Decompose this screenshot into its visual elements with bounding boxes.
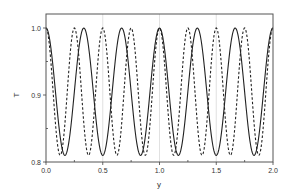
- x-tick-label: 1.0: [155, 167, 165, 174]
- y-axis-label: T: [12, 92, 21, 97]
- x-tick-label: 0.5: [98, 167, 108, 174]
- x-tick-label: 1.5: [211, 167, 221, 174]
- x-tick-label: 2.0: [268, 167, 278, 174]
- line-chart: 0.00.51.01.52.0 0.80.91.0 y T: [0, 0, 292, 194]
- x-axis-label: y: [157, 180, 161, 189]
- y-axis-ticks: 0.80.91.0: [31, 25, 48, 166]
- y-tick-label: 0.8: [31, 159, 41, 166]
- y-tick-label: 0.9: [31, 92, 41, 99]
- y-tick-label: 1.0: [31, 25, 41, 32]
- x-tick-label: 0.0: [41, 167, 51, 174]
